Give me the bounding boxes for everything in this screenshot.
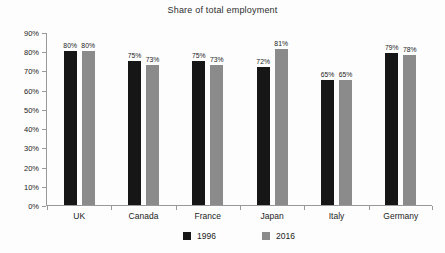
y-axis-tick xyxy=(42,129,46,130)
legend-item-2016: 2016 xyxy=(262,231,295,241)
legend-label-2016: 2016 xyxy=(276,231,295,241)
bar-group-italy: 65%65% xyxy=(304,33,368,205)
bar-2016-germany: 78% xyxy=(403,55,416,205)
y-axis-tick-label: 40% xyxy=(9,125,39,134)
y-axis-tick xyxy=(42,168,46,169)
legend-item-1996: 1996 xyxy=(183,231,216,241)
bar-value-label: 80% xyxy=(81,42,95,49)
bar-2016-italy: 65% xyxy=(339,80,352,205)
bar-group-france: 75%73% xyxy=(176,33,240,205)
y-axis-tick xyxy=(42,71,46,72)
bar-2016-japan: 81% xyxy=(275,49,288,205)
x-axis-label-italy: Italy xyxy=(329,211,345,221)
y-axis-tick-label: 10% xyxy=(9,182,39,191)
y-axis-tick xyxy=(42,148,46,149)
y-axis-tick-label: 30% xyxy=(9,144,39,153)
x-axis-tick xyxy=(240,206,241,210)
plot-area: 0%10%20%30%40%50%60%70%80%90%80%80%UK75%… xyxy=(46,33,432,206)
bar-value-label: 80% xyxy=(63,42,77,49)
x-axis-label-japan: Japan xyxy=(261,211,284,221)
bar-1996-japan: 72% xyxy=(257,67,270,205)
legend: 19962016 xyxy=(46,231,432,241)
x-axis-tick xyxy=(111,206,112,210)
y-axis-tick xyxy=(42,187,46,188)
bar-value-label: 75% xyxy=(192,52,206,59)
x-axis-tick xyxy=(47,206,48,210)
bar-group-japan: 72%81% xyxy=(240,33,304,205)
y-axis-tick-label: 0% xyxy=(9,202,39,211)
x-axis-label-germany: Germany xyxy=(383,211,418,221)
bar-1996-italy: 65% xyxy=(321,80,334,205)
bar-1996-uk: 80% xyxy=(64,51,77,205)
y-axis-tick xyxy=(42,91,46,92)
y-axis-tick-label: 70% xyxy=(9,67,39,76)
y-axis-tick xyxy=(42,33,46,34)
bar-group-uk: 80%80% xyxy=(47,33,111,205)
x-axis-tick xyxy=(369,206,370,210)
bar-1996-germany: 79% xyxy=(385,53,398,205)
bar-value-label: 78% xyxy=(403,46,417,53)
bar-value-label: 81% xyxy=(274,40,288,47)
bar-value-label: 73% xyxy=(146,56,160,63)
bar-value-label: 65% xyxy=(339,71,353,78)
legend-label-1996: 1996 xyxy=(197,231,216,241)
x-axis-tick xyxy=(432,206,433,210)
legend-swatch-1996 xyxy=(183,232,191,240)
y-axis-tick xyxy=(42,206,46,207)
bar-value-label: 79% xyxy=(385,44,399,51)
x-axis-label-france: France xyxy=(195,211,221,221)
y-axis-tick-label: 20% xyxy=(9,163,39,172)
legend-swatch-2016 xyxy=(262,232,270,240)
y-axis-tick-label: 90% xyxy=(9,29,39,38)
bar-group-germany: 79%78% xyxy=(369,33,433,205)
bar-value-label: 75% xyxy=(128,52,142,59)
bar-2016-canada: 73% xyxy=(146,65,159,205)
employment-share-chart: Share of total employment 0%10%20%30%40%… xyxy=(0,0,445,253)
y-axis-tick-label: 80% xyxy=(9,48,39,57)
y-axis-tick-label: 60% xyxy=(9,86,39,95)
y-axis-tick xyxy=(42,110,46,111)
bar-value-label: 65% xyxy=(321,71,335,78)
bar-2016-uk: 80% xyxy=(82,51,95,205)
y-axis-tick-label: 50% xyxy=(9,105,39,114)
y-axis-tick xyxy=(42,52,46,53)
x-axis-label-canada: Canada xyxy=(129,211,159,221)
chart-title: Share of total employment xyxy=(0,5,445,15)
bar-value-label: 73% xyxy=(210,56,224,63)
x-axis-tick xyxy=(176,206,177,210)
x-axis-tick xyxy=(304,206,305,210)
bar-1996-france: 75% xyxy=(192,61,205,205)
bar-group-canada: 75%73% xyxy=(111,33,175,205)
bar-1996-canada: 75% xyxy=(128,61,141,205)
x-axis-label-uk: UK xyxy=(73,211,85,221)
bar-2016-france: 73% xyxy=(210,65,223,205)
bar-value-label: 72% xyxy=(256,58,270,65)
